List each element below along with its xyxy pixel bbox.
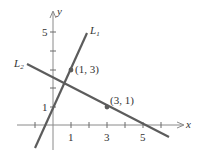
x-tick-label-1: 1 — [68, 131, 74, 143]
y-tick-label-5: 5 — [42, 26, 48, 38]
y-tick-label-1: 1 — [42, 101, 48, 113]
point-3-1-label: (3, 1) — [110, 94, 134, 107]
point-3-1 — [105, 105, 110, 110]
x-tick-label-3: 3 — [104, 131, 110, 143]
line-l2-label: L2 — [13, 57, 24, 71]
point-1-3 — [69, 68, 74, 73]
line-l1-label: L1 — [89, 24, 100, 38]
x-axis-label: x — [185, 118, 191, 130]
x-tick-label-5: 5 — [140, 131, 146, 143]
y-axis-label: y — [56, 5, 62, 17]
coordinate-plane: 1 3 5 1 5 x y L1 L2 (1, 3) (3, 1) — [0, 0, 202, 156]
point-1-3-label: (1, 3) — [75, 63, 99, 76]
